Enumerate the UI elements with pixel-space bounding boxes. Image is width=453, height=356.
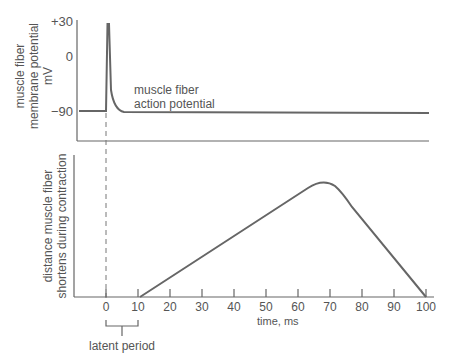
svg-text:70: 70 <box>323 300 337 314</box>
bottom-y-label: distance muscle fiber shortens during co… <box>41 154 69 299</box>
svg-text:membrane potential: membrane potential <box>27 23 41 129</box>
svg-text:90: 90 <box>387 300 401 314</box>
ap-label-line2: action potential <box>134 97 215 111</box>
x-tick-labels: 0 10 20 30 40 50 60 70 80 90 100 <box>103 300 437 314</box>
x-ticks <box>106 289 426 297</box>
svg-text:10: 10 <box>131 300 145 314</box>
svg-text:100: 100 <box>416 300 436 314</box>
svg-text:shortens during contraction: shortens during contraction <box>55 154 69 299</box>
svg-text:20: 20 <box>163 300 177 314</box>
svg-text:0: 0 <box>103 300 110 314</box>
top-y-label: muscle fiber membrane potential mV <box>13 23 55 129</box>
svg-text:80: 80 <box>355 300 369 314</box>
ytick-plus30: +30 <box>51 14 73 29</box>
action-potential-trace <box>79 24 429 113</box>
contraction-curve <box>140 182 426 297</box>
svg-text:40: 40 <box>227 300 241 314</box>
x-axis-label: time, ms <box>257 315 299 327</box>
muscle-twitch-diagram: +30 0 −90 muscle fiber membrane potentia… <box>0 0 453 356</box>
latent-period-bracket <box>106 320 138 336</box>
ytick-minus90: −90 <box>51 104 73 119</box>
latent-period-label: latent period <box>89 339 155 353</box>
ap-label-line1: muscle fiber <box>134 83 199 97</box>
svg-text:mV: mV <box>41 67 55 85</box>
svg-text:distance muscle fiber: distance muscle fiber <box>41 170 55 283</box>
svg-text:50: 50 <box>259 300 273 314</box>
ytick-zero: 0 <box>66 49 73 64</box>
svg-text:60: 60 <box>291 300 305 314</box>
svg-text:muscle fiber: muscle fiber <box>13 44 27 109</box>
svg-text:30: 30 <box>195 300 209 314</box>
